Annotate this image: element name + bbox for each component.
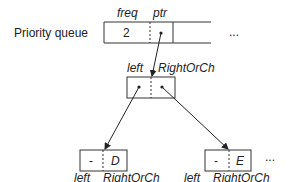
right-child-arrow-icon [162,87,228,149]
leaf-node-d [80,150,127,171]
freq-value: 2 [123,26,130,40]
leaf-d-right-label: RightOrCh [103,171,160,182]
leaf-node-e [205,150,251,171]
leaf-d-left-label: left [74,171,91,182]
ptr-field-label: ptr [152,6,168,20]
queue-ellipsis: ... [229,25,239,39]
leaf-e-left-label: left [184,171,201,182]
priority-queue-label: Priority queue [14,26,88,40]
left-child-arrow-icon [105,87,139,149]
internal-right-label: RightOrCh [158,61,215,75]
freq-field-label: freq [117,6,138,20]
leaf-d-right-value: D [111,154,120,168]
leaf-e-right-label: RightOrCh [213,171,270,182]
leaf-e-left-value: - [214,154,218,168]
queue-record [104,22,211,43]
huffman-priority-queue-diagram: Priority queue freq ptr 2 ... left Right… [0,0,290,182]
leaf-d-left-value: - [89,154,93,168]
internal-left-label: left [127,61,144,75]
leaf-e-right-value: E [236,154,245,168]
leaf-ellipsis: ... [265,150,275,164]
